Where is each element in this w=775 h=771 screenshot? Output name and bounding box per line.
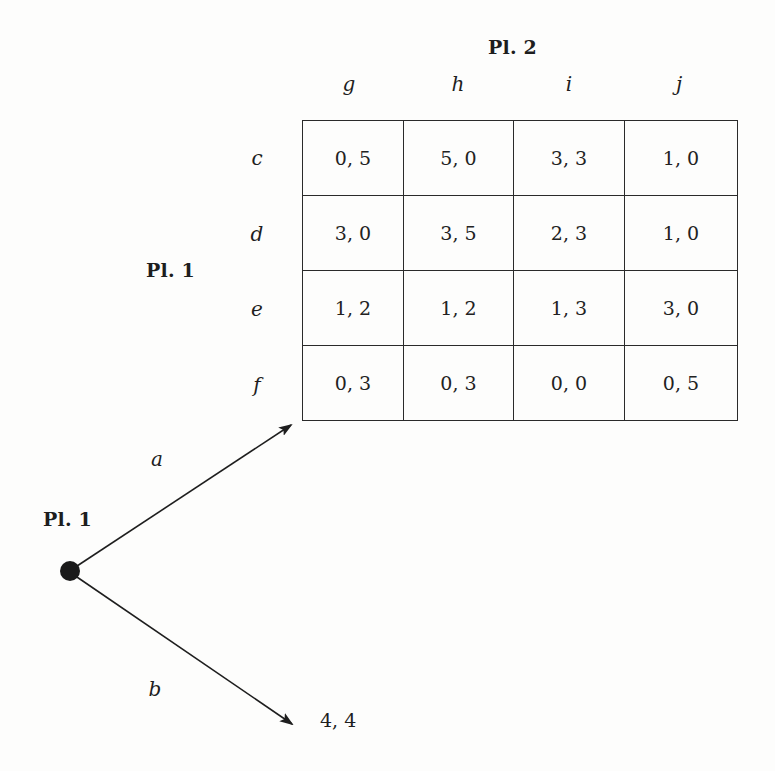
payoff-cell-c-h: 5, 0 [404, 121, 514, 196]
payoff-cell-f-g: 0, 3 [303, 346, 404, 421]
payoff-cell-d-i: 2, 3 [514, 196, 625, 271]
payoff-cell-e-i: 1, 3 [514, 271, 625, 346]
payoff-cell-f-h: 0, 3 [404, 346, 514, 421]
payoff-cell-f-j: 0, 5 [625, 346, 738, 421]
payoff-cell-e-h: 1, 2 [404, 271, 514, 346]
payoff-cell-f-i: 0, 0 [514, 346, 625, 421]
row-strategy-e: e [242, 297, 272, 321]
root-decision-node [60, 561, 80, 581]
branch-a-edge [74, 425, 291, 568]
matrix-row-f: 0, 3 0, 3 0, 0 0, 5 [303, 346, 738, 421]
terminal-payoff-b: 4, 4 [320, 709, 356, 731]
tree-root-player-label: Pl. 1 [43, 508, 92, 530]
payoff-matrix: 0, 5 5, 0 3, 3 1, 0 3, 0 3, 5 2, 3 1, 0 … [302, 120, 738, 421]
row-strategy-f: f [242, 373, 272, 397]
matrix-row-d: 3, 0 3, 5 2, 3 1, 0 [303, 196, 738, 271]
branch-a-label: a [142, 447, 172, 471]
row-strategy-d: d [242, 222, 272, 246]
payoff-cell-c-g: 0, 5 [303, 121, 404, 196]
row-player-label: Pl. 1 [146, 259, 195, 281]
row-strategy-c: c [242, 146, 272, 170]
matrix-row-c: 0, 5 5, 0 3, 3 1, 0 [303, 121, 738, 196]
payoff-cell-c-i: 3, 3 [514, 121, 625, 196]
column-strategy-h: h [443, 72, 473, 96]
branch-b-label: b [140, 677, 170, 701]
payoff-cell-c-j: 1, 0 [625, 121, 738, 196]
column-strategy-j: j [664, 72, 694, 96]
column-player-label: Pl. 2 [488, 36, 537, 58]
payoff-cell-d-j: 1, 0 [625, 196, 738, 271]
payoff-cell-d-h: 3, 5 [404, 196, 514, 271]
matrix-row-e: 1, 2 1, 2 1, 3 3, 0 [303, 271, 738, 346]
column-strategy-g: g [334, 72, 364, 96]
branch-b-edge [74, 575, 292, 724]
payoff-cell-e-g: 1, 2 [303, 271, 404, 346]
column-strategy-i: i [554, 72, 584, 96]
payoff-cell-e-j: 3, 0 [625, 271, 738, 346]
payoff-cell-d-g: 3, 0 [303, 196, 404, 271]
